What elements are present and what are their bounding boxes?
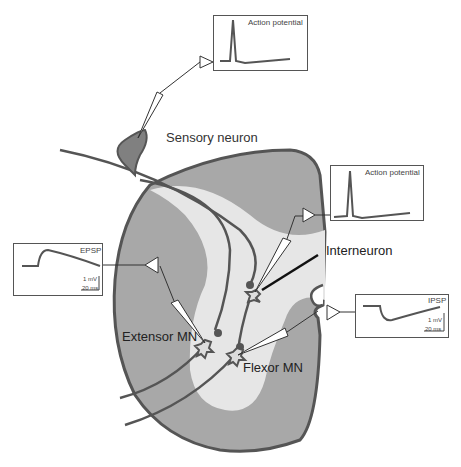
flexor-scale-time: 20 ms <box>425 326 441 332</box>
label-flexor-mn: Flexor MN <box>243 360 303 375</box>
label-extensor-mn: Extensor MN <box>122 329 197 344</box>
sensory-trace-title: Action potential <box>248 18 303 27</box>
extensor-trace-title: EPSP <box>80 246 101 255</box>
flexor-trace-title: IPSP <box>428 296 446 305</box>
interneuron-trace-title: Action potential <box>365 168 420 177</box>
extensor-scale-voltage: 1 mV <box>83 276 97 282</box>
label-sensory-neuron: Sensory neuron <box>166 130 258 145</box>
flexor-scale-voltage: 1 mV <box>428 317 442 323</box>
sensory-neuron-soma <box>118 130 147 175</box>
label-interneuron: Interneuron <box>326 243 393 258</box>
extensor-scale-time: 20 ms <box>82 285 98 291</box>
